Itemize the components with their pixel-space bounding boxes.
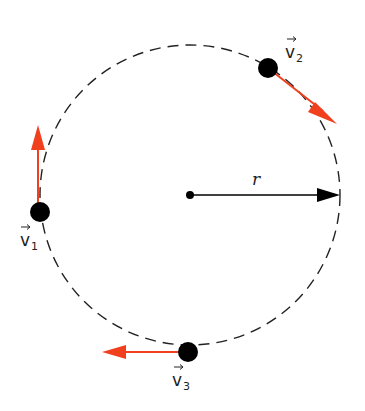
svg-text:v: v	[172, 370, 182, 390]
label-v3: v 3	[172, 365, 190, 394]
mass-v1	[30, 202, 50, 222]
circular-motion-diagram: r v 1 v 2 v 3	[0, 0, 365, 411]
object-v2: v 2	[258, 37, 337, 125]
mass-v3	[178, 342, 198, 362]
radius-label: r	[252, 169, 261, 189]
svg-text:v: v	[20, 230, 30, 250]
radius-arrow: r	[186, 169, 340, 202]
label-v2: v 2	[285, 37, 303, 66]
object-v1: v 1	[20, 125, 50, 253]
label-v1: v 1	[20, 225, 38, 254]
object-v3: v 3	[102, 342, 198, 393]
svg-text:1: 1	[31, 240, 38, 253]
svg-text:2: 2	[296, 52, 303, 65]
svg-text:v: v	[285, 42, 295, 62]
mass-v2	[258, 58, 278, 78]
svg-text:3: 3	[183, 380, 190, 393]
